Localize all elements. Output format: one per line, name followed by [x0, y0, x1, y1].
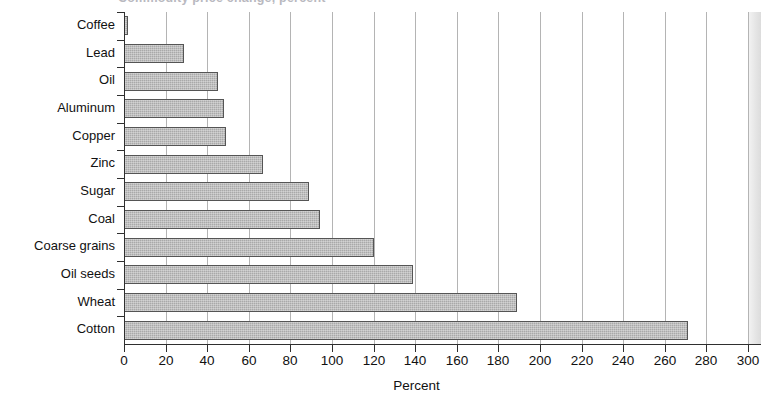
x-axis-tick-label-80: 80 — [282, 353, 297, 368]
plot-right-shading — [748, 12, 761, 345]
gridline-260 — [665, 12, 666, 344]
x-tick-180 — [498, 345, 499, 352]
x-axis-tick-label-240: 240 — [612, 353, 635, 368]
bar-cotton — [124, 321, 688, 340]
x-axis-title: Percent — [393, 378, 440, 393]
x-tick-260 — [665, 345, 666, 352]
y-axis-label-sugar: Sugar — [80, 183, 115, 198]
x-axis-tick-label-60: 60 — [241, 353, 256, 368]
y-axis-label-wheat: Wheat — [77, 294, 115, 309]
y-axis-label-coal: Coal — [88, 211, 115, 226]
x-axis-tick-label-100: 100 — [321, 353, 344, 368]
bar-coal — [124, 210, 320, 229]
x-tick-240 — [623, 345, 624, 352]
x-axis-tick-label-20: 20 — [158, 353, 173, 368]
x-tick-200 — [540, 345, 541, 352]
y-tick-3 — [117, 95, 125, 96]
x-axis-title-wrap: Percent — [0, 378, 783, 393]
y-axis-label-coarse-grains: Coarse grains — [34, 238, 115, 253]
x-axis-tick-label-280: 280 — [695, 353, 718, 368]
y-tick-11 — [117, 316, 125, 317]
y-tick-0 — [117, 12, 125, 13]
bar-zinc — [124, 155, 263, 174]
y-axis-label-aluminum: Aluminum — [57, 100, 115, 115]
bar-coarse-grains — [124, 238, 374, 257]
x-axis-tick-label-300: 300 — [737, 353, 760, 368]
y-axis-label-copper: Copper — [72, 128, 115, 143]
x-tick-300 — [748, 345, 749, 352]
x-tick-60 — [249, 345, 250, 352]
x-axis-tick-label-160: 160 — [446, 353, 469, 368]
y-axis-label-zinc: Zinc — [90, 155, 115, 170]
x-axis-tick-label-140: 140 — [404, 353, 427, 368]
bar-chart: CoffeeLeadOilAluminumCopperZincSugarCoal… — [0, 0, 783, 414]
bar-aluminum — [124, 99, 224, 118]
x-axis-tick-label-180: 180 — [487, 353, 510, 368]
x-axis-tick-label-220: 220 — [571, 353, 594, 368]
y-axis-label-lead: Lead — [86, 45, 115, 60]
x-tick-80 — [290, 345, 291, 352]
x-tick-120 — [374, 345, 375, 352]
gridline-220 — [582, 12, 583, 344]
x-axis-tick-label-260: 260 — [654, 353, 677, 368]
gridline-280 — [706, 12, 707, 344]
gridline-240 — [623, 12, 624, 344]
y-tick-7 — [117, 206, 125, 207]
x-axis-tick-label-0: 0 — [120, 353, 128, 368]
x-axis-tick-label-40: 40 — [199, 353, 214, 368]
x-tick-280 — [706, 345, 707, 352]
plot-area — [124, 12, 748, 344]
gridline-200 — [540, 12, 541, 344]
x-tick-160 — [457, 345, 458, 352]
y-tick-9 — [117, 261, 125, 262]
x-tick-40 — [207, 345, 208, 352]
bar-copper — [124, 127, 226, 146]
y-tick-4 — [117, 123, 125, 124]
x-tick-220 — [582, 345, 583, 352]
x-tick-0 — [124, 345, 125, 352]
bar-oil — [124, 72, 218, 91]
y-axis-label-oil-seeds: Oil seeds — [61, 266, 115, 281]
x-tick-100 — [332, 345, 333, 352]
bar-oil-seeds — [124, 265, 413, 284]
gridline-300 — [748, 12, 749, 344]
y-tick-5 — [117, 150, 125, 151]
y-tick-1 — [117, 40, 125, 41]
y-tick-10 — [117, 289, 125, 290]
y-axis-label-oil: Oil — [99, 72, 115, 87]
y-tick-8 — [117, 233, 125, 234]
x-tick-140 — [415, 345, 416, 352]
bar-wheat — [124, 293, 517, 312]
x-tick-20 — [166, 345, 167, 352]
x-axis-tick-label-120: 120 — [363, 353, 386, 368]
y-tick-2 — [117, 67, 125, 68]
y-tick-6 — [117, 178, 125, 179]
y-axis-label-cotton: Cotton — [77, 321, 115, 336]
bar-sugar — [124, 182, 309, 201]
y-axis-label-coffee: Coffee — [77, 17, 115, 32]
bar-lead — [124, 44, 184, 63]
x-axis-tick-label-200: 200 — [529, 353, 552, 368]
